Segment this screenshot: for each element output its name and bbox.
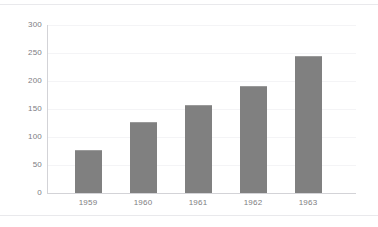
bar-chart-figure: 0 50 100 150 200 250 300 1959 1960 1961 … — [0, 0, 378, 227]
y-axis-tick-labels: 0 50 100 150 200 250 300 — [0, 0, 42, 227]
figure-bottom-rule — [0, 215, 378, 216]
figure-top-rule — [0, 4, 378, 5]
bar-1961[interactable] — [185, 105, 212, 193]
y-tick-label: 100 — [0, 133, 42, 141]
y-tick-label: 300 — [0, 21, 42, 29]
bar-1962[interactable] — [240, 86, 267, 193]
x-axis-line — [47, 193, 356, 194]
y-tick-label: 250 — [0, 49, 42, 57]
bar-1959[interactable] — [75, 150, 102, 193]
y-tick-label: 150 — [0, 105, 42, 113]
gridline-300 — [48, 25, 356, 26]
x-tick-label-1961: 1961 — [168, 199, 228, 207]
x-tick-label-1962: 1962 — [223, 199, 283, 207]
x-tick-label-1963: 1963 — [278, 199, 338, 207]
y-tick-label: 0 — [0, 189, 42, 197]
bar-1960[interactable] — [130, 122, 157, 193]
x-tick-label-1960: 1960 — [113, 199, 173, 207]
plot-area — [48, 25, 356, 193]
bar-1963[interactable] — [295, 56, 322, 193]
y-tick-label: 50 — [0, 161, 42, 169]
x-tick-label-1959: 1959 — [58, 199, 118, 207]
y-tick-label: 200 — [0, 77, 42, 85]
gridline-250 — [48, 53, 356, 54]
